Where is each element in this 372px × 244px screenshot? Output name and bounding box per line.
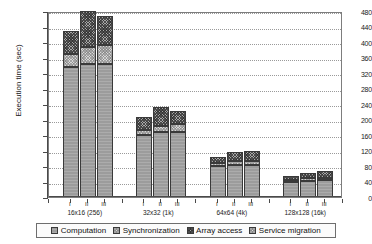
bar-16x16-256--III	[97, 16, 113, 197]
bar-segment-computation	[244, 165, 260, 197]
bar-segment-array-access	[97, 16, 113, 45]
synchronization-swatch-icon	[113, 227, 120, 234]
bar-segment-array-access	[210, 157, 226, 163]
bar-segment-array-access	[136, 117, 152, 129]
x-axis-baseline	[49, 196, 341, 197]
x-tick-mark	[177, 199, 178, 203]
legend-item-service-migration: Service migration	[249, 227, 320, 235]
bar-segment-array-access	[153, 107, 169, 126]
bar-segment-computation	[210, 166, 226, 197]
bar-segment-array-access	[244, 151, 260, 161]
bar-128x128-16k--III	[317, 171, 333, 197]
bar-segment-computation	[97, 64, 113, 197]
bar-segment-synchronization	[210, 163, 226, 166]
x-tick-mark	[324, 199, 325, 203]
bar-segment-computation	[227, 165, 243, 197]
bar-segment-synchronization	[227, 161, 243, 165]
x-tick-mark	[217, 199, 218, 203]
bar-segment-synchronization	[317, 178, 333, 180]
bar-segment-synchronization	[97, 45, 113, 64]
x-tick-mark	[143, 199, 144, 203]
bar-segment-synchronization	[63, 54, 79, 66]
bar-segment-computation	[317, 180, 333, 197]
bar-segment-synchronization	[80, 47, 96, 64]
x-tick-mark	[160, 199, 161, 203]
bar-segment-synchronization	[300, 178, 316, 180]
bar-segment-array-access	[80, 11, 96, 47]
legend-label-array-access: Array access	[196, 227, 242, 235]
bar-segment-synchronization	[153, 126, 169, 132]
bar-segment-computation	[300, 181, 316, 197]
bar-128x128-16k--I	[283, 176, 299, 197]
x-tick-mark	[290, 199, 291, 203]
bar-64x64-4k--II	[227, 152, 243, 197]
x-group-separator	[269, 199, 270, 203]
bar-32x32-1k--II	[153, 107, 169, 197]
chart-root: Execution time (sec) 0408012016020024028…	[0, 0, 372, 244]
service-migration-swatch-icon	[249, 227, 256, 234]
x-tick-mark	[234, 199, 235, 203]
x-tick-mark	[307, 199, 308, 203]
chart-legend: Computation Synchronization Array access…	[36, 223, 336, 238]
legend-item-computation: Computation	[51, 227, 106, 235]
bar-16x16-256--I	[63, 31, 79, 197]
bar-segment-computation	[136, 135, 152, 197]
bar-segment-array-access	[227, 152, 243, 161]
legend-item-synchronization: Synchronization	[113, 227, 179, 235]
legend-label-computation: Computation	[61, 227, 106, 235]
x-group-label: 32x32 (1k)	[122, 209, 196, 216]
x-group-label: 128x128 (16k)	[269, 209, 343, 216]
x-tick-mark	[87, 199, 88, 203]
legend-label-service-migration: Service migration	[259, 227, 321, 235]
bar-segment-array-access	[283, 176, 299, 179]
bar-64x64-4k--III	[244, 151, 260, 197]
legend-item-array-access: Array access	[187, 227, 243, 235]
y-axis-title: Execution time (sec)	[14, 11, 23, 151]
bar-16x16-256--II	[80, 11, 96, 197]
bar-segment-array-access	[63, 31, 79, 54]
bar-segment-computation	[170, 132, 186, 197]
bar-segment-computation	[283, 182, 299, 198]
bar-segment-computation	[80, 64, 96, 197]
bar-32x32-1k--I	[136, 117, 152, 197]
plot-area	[48, 12, 342, 198]
bar-segment-synchronization	[283, 180, 299, 182]
bar-segment-synchronization	[136, 130, 152, 135]
x-group-separator	[122, 199, 123, 203]
x-group-separator	[195, 199, 196, 203]
x-group-label: 16x16 (256)	[48, 209, 122, 216]
bar-segment-array-access	[170, 111, 186, 124]
x-group-separator	[342, 199, 343, 203]
array-access-swatch-icon	[187, 227, 194, 234]
legend-label-synchronization: Synchronization	[123, 227, 180, 235]
bar-128x128-16k--II	[300, 173, 316, 197]
bar-segment-computation	[63, 67, 79, 197]
bar-64x64-4k--I	[210, 157, 226, 197]
bar-segment-array-access	[317, 171, 333, 178]
bar-segment-synchronization	[244, 161, 260, 165]
computation-swatch-icon	[51, 227, 58, 234]
bar-segment-computation	[153, 132, 169, 197]
x-tick-mark	[70, 199, 71, 203]
x-tick-mark	[251, 199, 252, 203]
x-group-separator	[48, 199, 49, 203]
bar-segment-array-access	[300, 173, 316, 178]
bar-32x32-1k--III	[170, 111, 186, 197]
x-tick-mark	[104, 199, 105, 203]
bar-segment-synchronization	[170, 124, 186, 132]
x-group-label: 64x64 (4k)	[195, 209, 269, 216]
